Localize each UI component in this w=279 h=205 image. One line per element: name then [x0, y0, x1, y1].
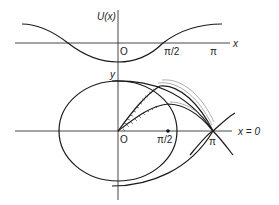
- phase-y-axis-label: y: [109, 69, 116, 80]
- diagram-canvas: U(x) x O π/2 π y O π/2 π x = 0: [0, 0, 279, 205]
- top-origin-label: O: [120, 46, 128, 57]
- top-half-pi-label: π/2: [164, 46, 180, 57]
- trajectory-steep: [118, 86, 213, 131]
- separatrix-falling: [213, 131, 233, 155]
- top-pi-label: π: [210, 46, 217, 57]
- top-y-axis-label: U(x): [97, 11, 116, 22]
- top-panel: [15, 10, 230, 80]
- phase-origin-label: O: [120, 134, 128, 145]
- half-pi-point: [166, 129, 170, 133]
- phase-pi-label: π: [209, 136, 216, 147]
- phase-half-pi-label: π/2: [157, 134, 173, 145]
- phase-x-axis-annotation: x = 0: [237, 126, 260, 137]
- top-x-axis-label: x: [232, 38, 239, 49]
